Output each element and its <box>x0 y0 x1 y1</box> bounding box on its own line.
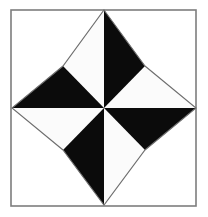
four-pointed-star-figure <box>0 0 208 217</box>
figure-canvas <box>0 0 208 217</box>
